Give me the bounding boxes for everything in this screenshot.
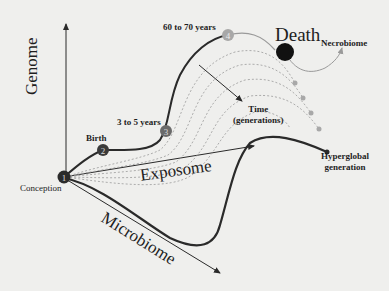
stage-node-3: 3 (160, 125, 172, 137)
age-60-70-label: 60 to 70 years (163, 22, 216, 32)
stage-node-1: 1 (58, 171, 71, 184)
generation-endpoints (293, 81, 322, 132)
life-curve-late (228, 33, 275, 50)
svg-text:1: 1 (62, 173, 67, 183)
life-curve (64, 35, 228, 177)
conception-label: Conception (20, 183, 62, 193)
birth-label: Birth (86, 133, 107, 143)
diagram-canvas: 1 2 3 4 Genome Exposome Microbiome Conce… (0, 0, 389, 291)
death-label: Death (275, 24, 320, 46)
svg-text:3: 3 (164, 127, 169, 137)
hyperglobal-label-line1: Hyperglobal (321, 151, 369, 162)
stage-node-4: 4 (222, 29, 234, 41)
svg-text:4: 4 (226, 31, 231, 41)
time-arrow (199, 65, 242, 101)
svg-text:2: 2 (101, 146, 106, 156)
age-3-5-label: 3 to 5 years (117, 117, 161, 127)
hyperglobal-label: Hyperglobal generation (321, 151, 369, 173)
necrobiome-label: Necrobiome (321, 38, 367, 48)
time-label-line2: (generations) (233, 115, 284, 126)
microbiome-axis (64, 178, 220, 273)
genome-label: Genome (22, 37, 42, 95)
stage-node-2: 2 (97, 144, 109, 156)
hyperglobal-label-line2: generation (321, 162, 369, 173)
time-label-line1: Time (233, 104, 284, 115)
time-label: Time (generations) (233, 104, 284, 126)
